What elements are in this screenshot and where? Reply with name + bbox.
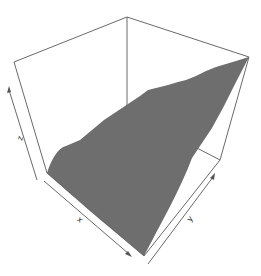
persp-plot: z x y bbox=[0, 0, 261, 276]
z-axis-arrow-icon bbox=[7, 86, 11, 93]
z-axis: z bbox=[7, 86, 37, 180]
box-edge-top-right bbox=[127, 17, 249, 57]
y-axis-label: y bbox=[185, 214, 195, 223]
box-edge-bottom-inner bbox=[195, 147, 220, 160]
surface bbox=[47, 57, 249, 256]
y-axis-arrow-icon bbox=[210, 173, 215, 180]
x-axis-label: x bbox=[75, 215, 85, 225]
box-edge-front-left-vertical bbox=[14, 62, 47, 173]
box-edge-top-left bbox=[14, 17, 127, 62]
